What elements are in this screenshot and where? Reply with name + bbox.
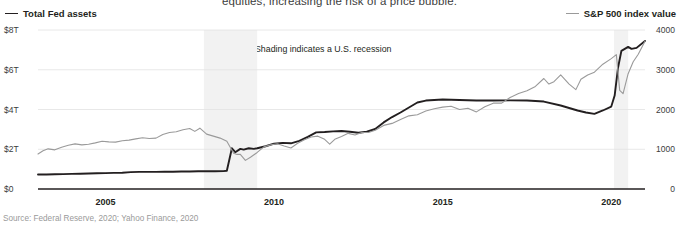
y2-axis-tick-label: 4000 (656, 25, 675, 35)
x-axis-tick-label: 2020 (601, 197, 621, 207)
y2-axis-tick-label: 1000 (656, 144, 675, 154)
y-axis-tick-label: $4T (4, 105, 19, 115)
series-line-fed-assets (38, 41, 645, 175)
x-axis-tick-label: 2005 (95, 197, 115, 207)
y-axis-tick-label: $0 (4, 184, 13, 194)
y2-axis-tick-label: 2000 (656, 105, 675, 115)
chart-root: equities, increasing the risk of a price… (0, 0, 679, 226)
y2-axis-tick-label: 0 (670, 184, 675, 194)
y-axis-tick-label: $8T (4, 25, 19, 35)
x-axis-tick-label: 2015 (433, 197, 453, 207)
y-axis-tick-label: $2T (4, 144, 19, 154)
y-axis-tick-label: $6T (4, 65, 19, 75)
y2-axis-tick-label: 3000 (656, 65, 675, 75)
chart-plot-area (0, 0, 679, 226)
x-axis-tick-label: 2010 (264, 197, 284, 207)
source-note: Source: Federal Reserve, 2020; Yahoo Fin… (3, 214, 198, 223)
series-line-sp500 (38, 41, 645, 160)
